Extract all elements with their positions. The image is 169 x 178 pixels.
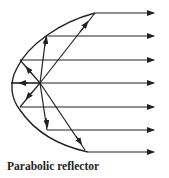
- diagram-caption: Parabolic reflector: [7, 160, 99, 172]
- reflected-rays: [11, 13, 154, 152]
- parabolic-reflector-diagram: [0, 0, 169, 178]
